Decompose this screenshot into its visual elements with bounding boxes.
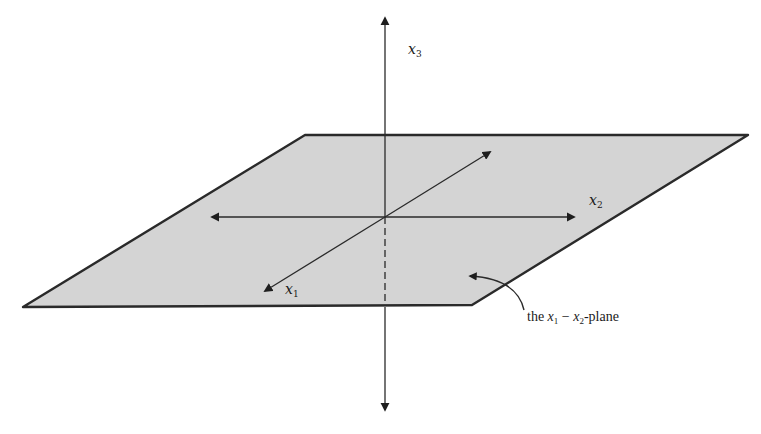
- x3-var: x: [408, 41, 416, 57]
- x3-subscript: 3: [416, 49, 422, 59]
- annotation-dash: −: [558, 309, 573, 324]
- diagram-canvas: [0, 0, 761, 434]
- annotation-prefix: the: [527, 309, 548, 324]
- x2-axis-label: x2: [589, 193, 603, 210]
- x2-var: x: [589, 192, 597, 208]
- x3-axis-label: x3: [408, 42, 422, 59]
- x1-subscript: 1: [293, 289, 299, 299]
- plane-annotation-label: the x1 − x2-plane: [527, 310, 619, 326]
- x2-subscript: 2: [597, 200, 603, 210]
- x1-axis-label: x1: [285, 282, 299, 299]
- annotation-suffix: -plane: [584, 309, 619, 324]
- x1-var: x: [285, 281, 293, 297]
